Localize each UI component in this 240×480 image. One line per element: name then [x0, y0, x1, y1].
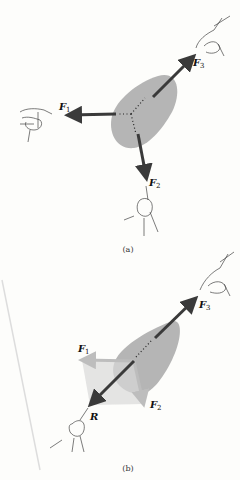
hand-icon-top-right [200, 252, 234, 296]
caption-a: (a) [122, 245, 133, 254]
rigid-body [111, 75, 177, 148]
caption-b: (b) [122, 464, 133, 473]
label-resultant: R [89, 411, 98, 422]
label-f2: F2 [148, 177, 161, 190]
hand-icon-bottom [124, 186, 158, 236]
hand-icon-top-right [196, 16, 230, 56]
label-f3: F3 [198, 299, 211, 312]
force-diagram: F1 F2 F3 (a) F1 F2 F3 R [0, 0, 240, 480]
label-f1: F1 [77, 343, 90, 356]
label-f3: F3 [192, 57, 205, 70]
hand-icon-left [20, 109, 52, 142]
component-arrow-f1 [84, 360, 134, 361]
hand-icon-bottom-left [50, 408, 88, 452]
label-f2: F2 [149, 399, 162, 412]
panel-a: F1 F2 F3 (a) [20, 16, 230, 254]
force-arrow-f1 [70, 114, 116, 115]
panel-b: F1 F2 F3 R (b) [2, 252, 234, 473]
label-f1: F1 [58, 101, 71, 114]
